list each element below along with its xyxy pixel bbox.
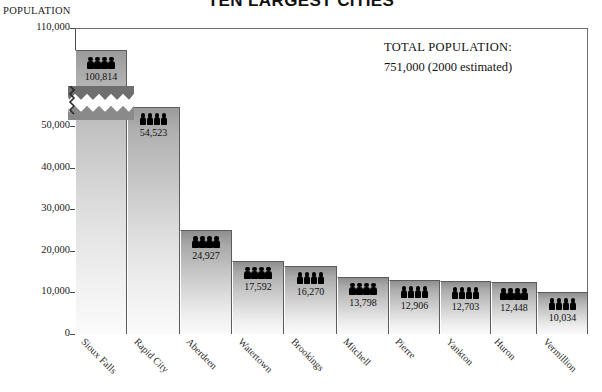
- people-icon: [538, 298, 587, 310]
- bar-value-label: 12,703: [441, 301, 490, 312]
- person-glyph: [304, 272, 311, 284]
- x-tick-label: Brookings: [289, 336, 326, 373]
- person-glyph: [297, 272, 304, 284]
- bar-break-zigzag-icon: [75, 86, 127, 116]
- person-glyph: [363, 283, 370, 295]
- chart-title: TEN LARGEST CITIES: [0, 0, 602, 11]
- person-glyph: [549, 298, 556, 310]
- y-tick-label: 110,000: [0, 21, 70, 32]
- person-glyph: [556, 298, 563, 310]
- x-tick-label: Sioux Falls: [79, 336, 119, 376]
- bar: 13,798: [337, 277, 389, 334]
- x-tick-label: Vermillion: [541, 336, 579, 374]
- person-glyph: [258, 267, 265, 279]
- y-tick-label: 30,000: [0, 202, 70, 213]
- person-glyph: [466, 287, 473, 299]
- person-glyph: [244, 267, 251, 279]
- bar-value-label: 16,270: [285, 286, 336, 297]
- x-tick-label: Watertown: [236, 336, 275, 375]
- person-glyph: [140, 113, 147, 125]
- person-glyph: [563, 298, 570, 310]
- bar-value-label: 12,906: [390, 300, 439, 311]
- bar: 12,703: [440, 281, 491, 334]
- bar-value-label: 54,523: [128, 127, 179, 138]
- bar: 12,448: [491, 282, 537, 334]
- person-glyph: [452, 287, 459, 299]
- person-glyph: [265, 267, 272, 279]
- bar-value-label: 24,927: [181, 250, 231, 261]
- y-tick-label: 40,000: [0, 161, 70, 172]
- person-glyph: [101, 57, 108, 69]
- people-icon: [338, 283, 388, 295]
- person-glyph: [422, 286, 429, 298]
- bar: 16,270: [284, 266, 337, 334]
- person-glyph: [500, 288, 507, 300]
- bar: 17,592: [232, 261, 284, 334]
- people-icon: [492, 288, 536, 300]
- people-icon: [285, 272, 336, 284]
- person-glyph: [370, 283, 377, 295]
- person-glyph: [206, 236, 213, 248]
- bar-value-label: 12,448: [492, 302, 536, 313]
- x-axis-labels: Sioux FallsRapid CityAberdeenWatertownBr…: [75, 334, 588, 392]
- person-glyph: [108, 57, 115, 69]
- person-glyph: [147, 113, 154, 125]
- person-glyph: [94, 57, 101, 69]
- y-tick-label: 50,000: [0, 119, 70, 130]
- x-tick-label: Huron: [492, 336, 518, 362]
- y-axis-caption: POPULATION: [3, 5, 71, 16]
- x-tick-label: Mitchell: [341, 336, 373, 368]
- person-glyph: [514, 288, 521, 300]
- bar-value-label: 10,034: [538, 312, 587, 323]
- person-glyph: [570, 298, 577, 310]
- bar-value-label: 17,592: [233, 281, 283, 292]
- person-glyph: [213, 236, 220, 248]
- bar-value-label: 100,814: [76, 71, 126, 82]
- person-glyph: [521, 288, 528, 300]
- person-glyph: [154, 113, 161, 125]
- person-glyph: [251, 267, 258, 279]
- person-glyph: [161, 113, 168, 125]
- bar-value-label: 13,798: [338, 297, 388, 308]
- x-tick-label: Aberdeen: [184, 336, 219, 371]
- people-icon: [233, 267, 283, 279]
- person-glyph: [401, 286, 408, 298]
- person-glyph: [199, 236, 206, 248]
- people-icon: [181, 236, 231, 248]
- total-population-value: 751,000 (2000 estimated): [384, 60, 512, 75]
- bar: 10,034: [537, 292, 588, 334]
- people-icon: [128, 113, 179, 125]
- people-icon: [76, 57, 126, 69]
- x-tick-label: Pierre: [393, 336, 418, 361]
- y-tick-label: 10,000: [0, 285, 70, 296]
- chart-root: TEN LARGEST CITIES POPULATION 010,00020,…: [0, 0, 602, 392]
- person-glyph: [507, 288, 514, 300]
- person-glyph: [87, 57, 94, 69]
- bar: 54,523: [127, 107, 180, 334]
- person-glyph: [415, 286, 422, 298]
- person-glyph: [192, 236, 199, 248]
- y-tick-label: 0: [0, 327, 70, 338]
- bar: 24,927: [180, 230, 232, 334]
- person-glyph: [311, 272, 318, 284]
- people-icon: [390, 286, 439, 298]
- person-glyph: [473, 287, 480, 299]
- person-glyph: [356, 283, 363, 295]
- bar: 12,906: [389, 280, 440, 334]
- person-glyph: [349, 283, 356, 295]
- person-glyph: [318, 272, 325, 284]
- x-tick-label: Rapid City: [132, 336, 171, 375]
- people-icon: [441, 287, 490, 299]
- person-glyph: [408, 286, 415, 298]
- total-population-label: TOTAL POPULATION:: [384, 40, 512, 55]
- total-population-callout: TOTAL POPULATION: 751,000 (2000 estimate…: [384, 40, 512, 75]
- x-tick-label: Yankton: [444, 336, 475, 367]
- person-glyph: [459, 287, 466, 299]
- y-tick-label: 20,000: [0, 244, 70, 255]
